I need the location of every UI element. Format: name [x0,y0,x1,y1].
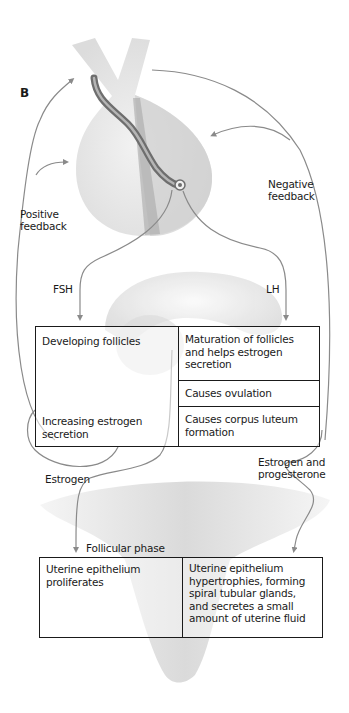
lh-effect-maturation: Maturation of follicles and helps estrog… [179,329,319,375]
fsh-label: FSH [53,283,73,295]
follicular-phase-label: Follicular phase [86,542,165,554]
negative-feedback-label: Negative feedback [268,178,328,202]
estrogen-label: Estrogen [45,473,90,485]
lh-effect-corpus-luteum: Causes corpus luteum formation [179,409,319,442]
panel-label: B [20,86,29,100]
uterus-effect-proliferates: Uterine epithelium proliferates [40,559,182,592]
estrogen-progesterone-label: Estrogen and progesterone [258,456,340,480]
fsh-effect-increasing-estrogen: Increasing estrogen secretion [36,411,178,444]
lh-effect-ovulation: Causes ovulation [179,383,319,404]
fsh-effect-developing-follicles: Developing follicles [36,331,178,352]
ovary-effects-table: Developing follicles Increasing estrogen… [35,326,320,447]
pituitary-illustration [72,38,212,236]
uterus-effect-hypertrophies: Uterine epithelium hypertrophies, formin… [183,558,323,629]
positive-feedback-label: Positive feedback [20,208,80,232]
lh-label: LH [266,283,279,295]
uterus-effects-table: Uterine epithelium proliferates Uterine … [39,557,323,638]
table-divider [178,406,319,407]
table-divider [178,380,319,381]
